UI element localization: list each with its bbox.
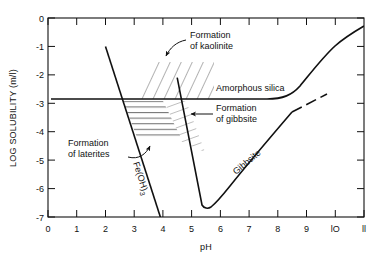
y-tick-label: -2 (36, 70, 44, 80)
x-tick-label: 6 (218, 224, 223, 234)
chart-canvas: 0 -1 -2 -3 -4 -5 -6 -7 0 1 2 3 4 5 6 7 8… (0, 0, 382, 272)
x-tick-label: 3 (132, 224, 137, 234)
x-tick-label: lO (331, 224, 340, 234)
solubility-diagram-figure: 0 -1 -2 -3 -4 -5 -6 -7 0 1 2 3 4 5 6 7 8… (0, 0, 382, 272)
annotation-kaolinite-line1: Formation (190, 30, 231, 40)
x-tick-labels: 0 1 2 3 4 5 6 7 8 9 lO ll (45, 224, 366, 234)
y-tick-labels: 0 -1 -2 -3 -4 -5 -6 -7 (36, 14, 44, 223)
x-tick-label: 2 (103, 224, 108, 234)
x-tick-label: 5 (189, 224, 194, 234)
y-tick-label: -3 (36, 99, 44, 109)
y-tick-label: -7 (36, 213, 44, 223)
x-tick-label: 4 (160, 224, 165, 234)
annotation-kaolinite-line2: of kaolinite (190, 41, 233, 51)
x-tick-label: ll (362, 224, 366, 234)
annotation-laterites-line1: Formation (68, 138, 109, 148)
x-tick-label: 0 (45, 224, 50, 234)
x-tick-label: 7 (247, 224, 252, 234)
x-tick-label: 1 (74, 224, 79, 234)
y-axis-title: LOG SOLUBILITY (m/l) (8, 69, 18, 167)
y-tick-label: -5 (36, 156, 44, 166)
annotation-gibbsite-line2: of gibbsite (216, 114, 257, 124)
x-tick-label: 8 (275, 224, 280, 234)
y-tick-label: -1 (36, 42, 44, 52)
annotation-amorphous-silica: Amorphous silica (216, 83, 285, 93)
y-tick-label: -6 (36, 184, 44, 194)
annotation-gibbsite-line1: Formation (216, 103, 257, 113)
annotation-laterites-line2: of laterites (68, 149, 110, 159)
y-tick-label: 0 (39, 14, 44, 24)
x-axis-title: pH (200, 242, 212, 252)
y-tick-label: -4 (36, 127, 44, 137)
x-tick-label: 9 (304, 224, 309, 234)
